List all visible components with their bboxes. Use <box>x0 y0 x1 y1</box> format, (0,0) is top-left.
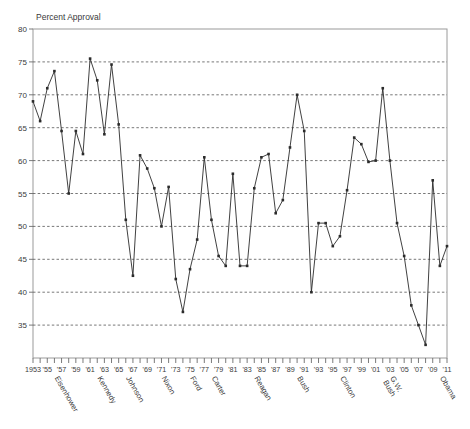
y-tick-label-65: 65 <box>18 124 27 133</box>
x-tick-label-1975: '75 <box>185 365 194 374</box>
y-axis-title: Percent Approval <box>36 12 101 22</box>
y-tick-label-75: 75 <box>18 58 27 67</box>
x-tick-label-1989: '89 <box>285 365 294 374</box>
data-point-1954 <box>39 120 42 123</box>
x-tick-label-1955: '55 <box>43 365 52 374</box>
data-point-2010 <box>439 265 442 268</box>
data-point-1988 <box>282 199 285 202</box>
data-point-1978 <box>210 219 213 222</box>
data-point-1955 <box>46 87 49 90</box>
data-point-2007 <box>417 324 420 327</box>
x-tick-label-1959: '59 <box>71 365 80 374</box>
data-point-1995 <box>331 245 334 248</box>
data-point-1994 <box>324 222 327 225</box>
data-point-1998 <box>353 136 356 139</box>
y-tick-label-55: 55 <box>18 190 27 199</box>
y-tick-label-70: 70 <box>18 91 27 100</box>
president-label-nixon: Nixon <box>160 375 178 396</box>
data-point-1956 <box>53 70 56 73</box>
data-point-1973 <box>174 278 177 281</box>
approval-series-line <box>33 59 447 345</box>
data-point-1971 <box>160 225 163 228</box>
president-label-g-w-bush: G.W.Bush <box>381 375 404 398</box>
data-point-1997 <box>346 189 349 192</box>
data-point-2001 <box>374 159 377 162</box>
data-point-1977 <box>203 156 206 159</box>
x-tick-label-1961: '61 <box>85 365 94 374</box>
approval-series-markers <box>32 57 449 346</box>
x-axis-ticks <box>33 358 447 363</box>
x-tick-label-1993: '93 <box>314 365 323 374</box>
y-tick-label-50: 50 <box>18 222 27 231</box>
x-tick-label-1957: '57 <box>57 365 66 374</box>
data-point-2009 <box>431 179 434 182</box>
gridlines <box>33 62 447 325</box>
data-point-2003 <box>389 159 392 162</box>
data-point-1957 <box>60 130 63 133</box>
data-point-1959 <box>75 130 78 133</box>
x-tick-label-1965: '65 <box>114 365 123 374</box>
president-label-reagan: Reagan <box>253 375 274 403</box>
president-label-carter: Carter <box>210 375 229 398</box>
x-tick-label-2011: '11 <box>443 365 452 374</box>
data-point-1996 <box>339 235 342 238</box>
x-tick-label-1969: '69 <box>143 365 152 374</box>
data-point-1967 <box>132 274 135 277</box>
presidential-approval-line-chart: 80757065605550454035 1953'55'57'59'61'63… <box>0 0 470 429</box>
president-label-eisenhower: Eisenhower <box>53 375 81 414</box>
president-label-ford: Ford <box>188 375 204 393</box>
x-tick-label-2007: '07 <box>414 365 423 374</box>
x-tick-label-1953: 1953 <box>25 365 41 374</box>
data-point-1989 <box>289 146 292 149</box>
data-point-2004 <box>396 222 399 225</box>
x-tick-label-1991: '91 <box>300 365 309 374</box>
x-tick-label-1983: '83 <box>242 365 251 374</box>
president-label-bush: Bush <box>295 375 311 394</box>
x-tick-label-1977: '77 <box>200 365 209 374</box>
x-tick-label-2001: '01 <box>371 365 380 374</box>
x-axis-tick-labels: 1953'55'57'59'61'63'65'67'69'71'73'75'77… <box>25 365 451 374</box>
x-tick-label-1999: '99 <box>357 365 366 374</box>
x-tick-label-1995: '95 <box>328 365 337 374</box>
y-tick-label-45: 45 <box>18 255 27 264</box>
data-point-1969 <box>146 167 149 170</box>
data-point-2006 <box>410 304 413 307</box>
data-point-1965 <box>117 123 120 126</box>
x-tick-label-1997: '97 <box>342 365 351 374</box>
president-label-clinton: Clinton <box>338 375 358 400</box>
data-point-1958 <box>67 192 70 195</box>
data-point-1972 <box>167 186 170 189</box>
data-point-1968 <box>139 154 142 157</box>
x-tick-label-1985: '85 <box>257 365 266 374</box>
data-point-1993 <box>317 222 320 225</box>
data-point-1976 <box>196 238 199 241</box>
data-point-1982 <box>239 265 242 268</box>
x-tick-label-1981: '81 <box>228 365 237 374</box>
y-axis-ticks <box>29 29 33 325</box>
approval-chart: 80757065605550454035 1953'55'57'59'61'63… <box>0 0 470 429</box>
y-axis-tick-labels: 80757065605550454035 <box>18 25 27 330</box>
data-point-1964 <box>110 63 113 66</box>
data-point-1961 <box>89 57 92 60</box>
data-point-1970 <box>153 187 156 190</box>
data-point-2002 <box>381 87 384 90</box>
data-point-1987 <box>274 212 277 215</box>
data-point-1966 <box>124 219 127 222</box>
president-era-labels: EisenhowerKennedyJohnsonNixonFordCarterR… <box>53 375 459 414</box>
data-point-1979 <box>217 255 220 258</box>
data-point-1975 <box>189 268 192 271</box>
data-point-1984 <box>253 187 256 190</box>
data-point-2011 <box>446 245 449 248</box>
data-point-1953 <box>32 100 35 103</box>
data-point-1981 <box>232 172 235 175</box>
data-point-1999 <box>360 143 363 146</box>
y-tick-label-35: 35 <box>18 321 27 330</box>
x-tick-label-2009: '09 <box>428 365 437 374</box>
data-point-1991 <box>303 130 306 133</box>
x-tick-label-1971: '71 <box>157 365 166 374</box>
y-tick-label-40: 40 <box>18 288 27 297</box>
data-point-1985 <box>260 156 263 159</box>
data-point-2005 <box>403 255 406 258</box>
data-point-2000 <box>367 161 370 164</box>
x-tick-label-1967: '67 <box>128 365 137 374</box>
